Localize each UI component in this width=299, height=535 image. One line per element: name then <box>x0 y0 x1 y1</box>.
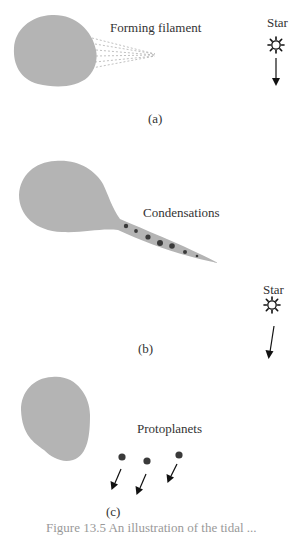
condensation <box>124 224 128 228</box>
protoplanets-label: Protoplanets <box>137 422 202 435</box>
gas-cloud-a <box>14 15 97 86</box>
forming-filament-label: Forming filament <box>110 21 201 34</box>
condensations-label: Condensations <box>143 206 220 219</box>
forming-filament-lines <box>92 38 155 68</box>
panel-label-c: (c) <box>106 505 120 518</box>
condensation <box>157 240 163 246</box>
protoplanets <box>118 451 182 464</box>
figure-caption: Figure 13.5 An illustration of the tidal… <box>46 521 257 534</box>
arrow <box>167 464 178 483</box>
star-icon <box>268 37 284 53</box>
arrow <box>136 474 147 495</box>
protoplanet <box>175 451 182 458</box>
protoplanet-motion-arrows <box>111 464 178 495</box>
panel-label-b: (b) <box>138 342 153 355</box>
protoplanet <box>143 457 150 464</box>
condensation <box>169 243 175 249</box>
arrow <box>111 469 122 490</box>
panel-label-a: (a) <box>148 112 162 125</box>
star-label-a: Star <box>267 16 288 29</box>
condensation <box>134 229 138 233</box>
protoplanet <box>118 453 125 460</box>
star-motion-arrow-a <box>272 58 280 86</box>
star-icon <box>264 297 280 313</box>
gas-cloud-c <box>21 377 90 461</box>
condensation <box>196 255 199 258</box>
panel-b <box>19 161 280 359</box>
star-label-b: Star <box>263 283 284 296</box>
star-motion-arrow-b <box>266 326 275 359</box>
condensation <box>183 250 187 254</box>
condensation <box>145 234 150 239</box>
